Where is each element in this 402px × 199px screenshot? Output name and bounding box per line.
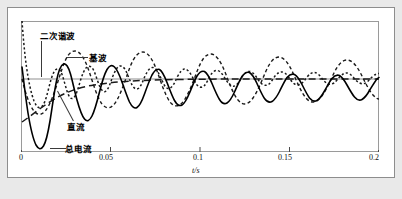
x-tick-label-0: 0 xyxy=(19,153,23,162)
annotation-second-harmonic: 二次谐波 xyxy=(40,29,75,41)
x-tick-label-02: 0.2 xyxy=(369,153,379,162)
x-tick-label-01: 0.1 xyxy=(193,153,203,162)
leader-second-harmonic xyxy=(41,41,42,77)
curve-dc-component xyxy=(22,79,379,122)
annotation-fundamental: 基波 xyxy=(89,51,107,63)
x-axis-title: t/s xyxy=(192,166,200,175)
leader-fundamental xyxy=(66,57,88,58)
x-tick-label-005: 0.05 xyxy=(99,153,113,162)
x-tick-label-015: 0.15 xyxy=(278,153,292,162)
annotation-dc: 直流 xyxy=(67,120,85,132)
plot-area: 二次谐波 基波 直流 总电流 xyxy=(21,21,379,152)
curve-total-current xyxy=(22,64,379,149)
figure-card: 二次谐波 基波 直流 总电流 0 0.05 0.1 0.15 0.2 t/s xyxy=(7,7,395,178)
